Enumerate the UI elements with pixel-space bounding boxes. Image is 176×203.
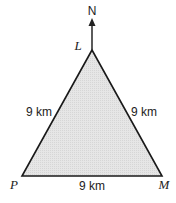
north-label: N [88,4,97,18]
triangle-diagram: N L P M 9 km 9 km 9 km [0,0,176,203]
vertex-label-m: M [158,177,171,192]
side-label-pm: 9 km [79,179,105,193]
vertex-label-l: L [73,38,81,53]
side-label-lp: 9 km [26,105,52,119]
north-arrow-icon [89,18,96,26]
vertex-label-p: P [9,177,18,192]
side-label-lm: 9 km [131,105,157,119]
